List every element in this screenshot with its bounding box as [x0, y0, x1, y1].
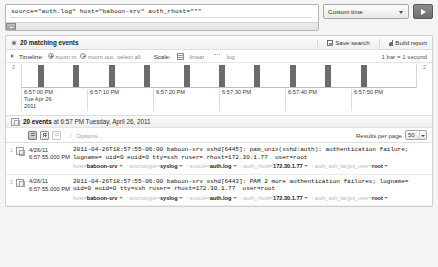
save-search-button[interactable]: Save search	[327, 39, 369, 46]
event-field-key: auth_ssh_target_user=	[315, 163, 372, 169]
event-field[interactable]: source=auth.log	[190, 195, 239, 201]
table-view-icon	[43, 133, 47, 137]
chevron-down-icon[interactable]	[384, 197, 388, 199]
results-panel: 20 matching events Save search Build rep…	[5, 35, 433, 207]
event-select-checkbox[interactable]	[16, 146, 29, 171]
chevron-down-icon[interactable]	[119, 197, 123, 199]
chevron-down-icon	[421, 135, 425, 137]
timeline-bar[interactable]	[184, 65, 190, 87]
options-link[interactable]: Options...	[77, 132, 103, 139]
event-field[interactable]: host=baboon-srv	[73, 163, 125, 169]
list-view-icon	[31, 133, 35, 137]
event-field-value[interactable]: auth.log	[210, 163, 232, 169]
event-field-value[interactable]: 172.30.1.77	[273, 163, 303, 169]
expand-events-button[interactable]	[11, 118, 19, 126]
x-axis-tick: 6:57:20 PM	[153, 89, 185, 111]
timeline-plot-area[interactable]	[21, 64, 417, 88]
x-axis-tick-sublabel: Tue Apr 26	[24, 96, 53, 103]
linear-scale-icon[interactable]	[177, 53, 184, 60]
event-timestamp[interactable]: 4/26/116:57:55.000 PM	[29, 178, 73, 203]
chevron-down-icon[interactable]	[304, 197, 308, 199]
collapse-triangle-icon[interactable]	[11, 54, 14, 58]
zoom-in-button[interactable]: zoom in	[48, 53, 77, 60]
chevron-down-icon	[399, 11, 403, 14]
timeline-bar[interactable]	[109, 65, 115, 87]
search-input[interactable]: source="auth.log" host="baboon-srv" auth…	[5, 4, 319, 31]
event-field[interactable]: auth_rhost=172.30.1.77	[243, 195, 310, 201]
event-row[interactable]: 14/26/116:57:55.000 PM2011-04-26T18:57:5…	[6, 143, 432, 175]
divider	[379, 39, 380, 47]
event-field[interactable]: auth_ssh_target_user=root	[315, 195, 391, 201]
event-field[interactable]: auth_ssh_target_user=root	[315, 163, 391, 169]
event-field[interactable]: sourcetype=syslog	[129, 163, 185, 169]
event-field-value[interactable]: baboon-srv	[87, 163, 117, 169]
event-field-value[interactable]: syslog	[160, 163, 178, 169]
raw-view-button[interactable]	[52, 131, 61, 140]
x-axis-tick-label: 6:57:20 PM	[156, 89, 185, 96]
zoom-out-icon	[80, 53, 86, 59]
event-field[interactable]: auth_rhost=172.30.1.77	[243, 163, 310, 169]
scrollbar-thumb[interactable]	[6, 23, 16, 31]
event-field-value[interactable]: auth.log	[210, 195, 232, 201]
timeline-bar[interactable]	[73, 65, 79, 87]
event-field-value[interactable]: 172.30.1.77	[273, 195, 303, 201]
chevron-down-icon[interactable]	[304, 165, 308, 167]
event-field[interactable]: sourcetype=syslog	[129, 195, 185, 201]
bar-scale-note: 1 bar = 1 second	[381, 53, 427, 60]
events-count: 20 events	[23, 118, 52, 125]
time-range-picker[interactable]: Custom time	[323, 4, 409, 19]
event-field-value[interactable]: root	[372, 163, 383, 169]
event-field[interactable]: source=auth.log	[190, 163, 239, 169]
results-per-page-select[interactable]: 50	[405, 130, 427, 140]
event-field-key: sourcetype=	[129, 195, 160, 201]
chevron-down-icon[interactable]	[179, 197, 183, 199]
search-underline	[10, 17, 312, 18]
event-select-checkbox[interactable]	[16, 178, 29, 203]
search-query-text[interactable]: source="auth.log" host="baboon-srv" auth…	[10, 8, 314, 15]
select-all-button[interactable]: select all	[117, 53, 141, 60]
linear-scale-label[interactable]: linear	[190, 53, 205, 60]
log-scale-label[interactable]: log	[226, 53, 234, 60]
event-body: 2011-04-26T18:57:55-06:00 baboon-srv ssh…	[73, 146, 427, 171]
bar-chart-icon	[389, 40, 394, 46]
timeline-bar[interactable]	[290, 65, 296, 87]
timeline-bar[interactable]	[361, 65, 367, 87]
timeline-bar[interactable]	[144, 65, 150, 87]
y-axis-label-right: 2	[423, 64, 426, 70]
event-field-value[interactable]: syslog	[160, 195, 178, 201]
event-field-value[interactable]: baboon-srv	[87, 195, 117, 201]
zoom-out-button[interactable]: zoom out	[80, 53, 113, 60]
event-field-key: auth_rhost=	[243, 195, 273, 201]
event-raw-text[interactable]: 2011-04-26T18:57:55-06:00 baboon-srv ssh…	[73, 146, 427, 162]
chevron-down-icon[interactable]	[179, 165, 183, 167]
chevron-down-icon[interactable]	[233, 165, 237, 167]
chevron-down-icon[interactable]	[384, 165, 388, 167]
field-separator: |	[187, 163, 188, 169]
timeline-bar[interactable]	[325, 65, 331, 87]
event-field[interactable]: host=baboon-srv	[73, 195, 125, 201]
event-field-key: source=	[190, 195, 210, 201]
matching-events-bar: 20 matching events Save search Build rep…	[6, 36, 432, 50]
field-separator: |	[312, 163, 313, 169]
build-report-button[interactable]: Build report	[389, 39, 427, 46]
list-view-button[interactable]	[28, 131, 37, 140]
y-axis-label-left: 2	[12, 64, 15, 70]
timeline-bar[interactable]	[254, 65, 260, 87]
table-view-button[interactable]	[40, 131, 49, 140]
event-field-value[interactable]: root	[372, 195, 383, 201]
timeline-bar[interactable]	[38, 65, 44, 87]
search-go-button[interactable]	[413, 4, 433, 19]
results-per-page-value: 50	[408, 132, 420, 138]
timeline-bar[interactable]	[219, 65, 225, 87]
event-timestamp[interactable]: 4/26/116:57:55.000 PM	[29, 146, 73, 171]
chevron-down-icon[interactable]	[233, 197, 237, 199]
event-field-key: host=	[73, 195, 87, 201]
event-time: 6:57:55.000 PM	[29, 186, 73, 194]
event-row[interactable]: 24/26/116:57:55.000 PM2011-04-26T18:57:5…	[6, 175, 432, 207]
search-horizontal-scrollbar[interactable]	[6, 22, 318, 30]
timeline-chart[interactable]: 2 2 6:57:00 PMTue Apr 2620116:57:10 PM6:…	[6, 63, 432, 115]
chevron-down-icon[interactable]	[119, 165, 123, 167]
field-separator: |	[240, 195, 241, 201]
event-raw-text[interactable]: 2011-04-26T18:57:55-06:00 baboon-srv ssh…	[73, 178, 427, 194]
log-scale-icon[interactable]	[214, 54, 220, 58]
